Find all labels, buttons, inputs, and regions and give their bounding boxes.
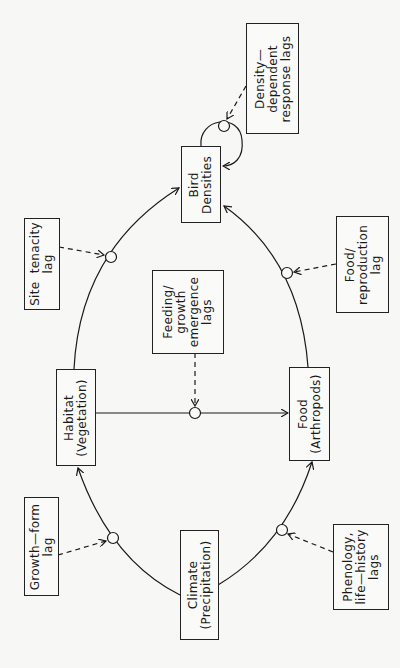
node-food: Food(Arthropods) (289, 367, 330, 461)
lag-arrow-growth-form (58, 541, 106, 555)
lag-label: Density— (253, 35, 266, 122)
lag-label: lags (368, 529, 381, 604)
lag-arrow-density (227, 86, 246, 119)
lag-box-phenology: Phenology,life—historylags (333, 524, 389, 610)
node-label: Food (297, 374, 310, 453)
lag-label: response lags (279, 35, 292, 122)
lag-node-phenology (277, 525, 288, 536)
lag-box-food-reproduction: Food/reproductionlag (336, 216, 389, 313)
node-label: (Precipitation) (200, 541, 213, 630)
lag-label: reproduction (356, 224, 369, 304)
node-label: Densities (201, 155, 214, 213)
lag-arrow-phenology (288, 534, 333, 552)
lag-box-feeding-growth: Feeding/growthemergencelags (152, 270, 224, 354)
lag-label: dependent (266, 35, 279, 122)
node-label: Climate (187, 541, 200, 630)
edge-climate-habitat (78, 468, 180, 595)
lag-arrow-food-reproduction (294, 264, 336, 272)
lag-label: lags (201, 277, 214, 347)
lag-node-density (219, 121, 230, 132)
lag-label: lag (369, 224, 382, 304)
lag-node-site-tenacity (106, 252, 117, 263)
lag-label: lag (42, 503, 55, 590)
edge-climate-food (218, 462, 312, 585)
lag-box-site-tenacity: Site tenacitylag (24, 218, 60, 310)
lag-node-growth-form (108, 533, 119, 544)
edge-food-bird (224, 206, 308, 367)
lag-box-growth-form: Growth—formlag (24, 497, 59, 596)
lag-node-food-reproduction (282, 268, 293, 279)
lag-label: lag (42, 222, 55, 306)
lag-node-feeding-growth (190, 408, 201, 419)
node-bird-densities: BirdDensities (181, 146, 221, 223)
lag-label: Growth—form (29, 503, 42, 590)
node-label: (Vegetation) (76, 379, 89, 457)
lag-arrow-site-tenacity (59, 247, 104, 255)
lag-label: Food/ (343, 224, 356, 304)
node-label: (Arthropods) (310, 374, 323, 453)
node-climate: Climate(Precipitation) (180, 530, 219, 640)
lag-box-density-dependent: Density—dependentresponse lags (246, 23, 299, 134)
node-habitat: Habitat(Vegetation) (56, 369, 96, 466)
